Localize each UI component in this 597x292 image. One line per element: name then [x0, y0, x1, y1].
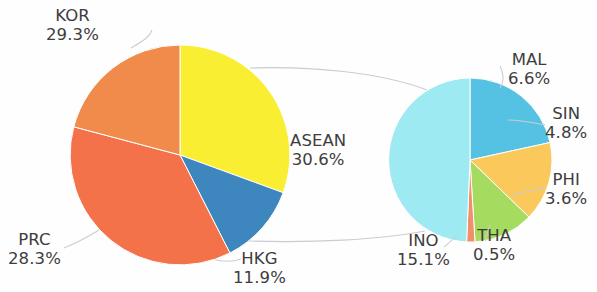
slice-label-phi: PHI 3.6%	[545, 170, 587, 208]
slice-label-hkg-value: 11.9%	[233, 268, 286, 287]
main-pie	[70, 45, 290, 265]
leader-line-prc	[64, 230, 99, 248]
leader-line-kor	[131, 30, 152, 48]
slice-label-ino-value: 15.1%	[397, 250, 450, 269]
slice-label-mal: MAL 6.6%	[508, 50, 550, 88]
slice-label-ino-name: INO	[397, 231, 450, 250]
pie-slice-ino[interactable]	[389, 78, 470, 242]
slice-label-phi-name: PHI	[545, 170, 587, 189]
slice-label-kor-value: 29.3%	[46, 25, 99, 44]
slice-label-tha-name: THA	[473, 226, 515, 245]
slice-label-mal-value: 6.6%	[508, 69, 550, 88]
asean-breakout-pie	[389, 78, 552, 242]
slice-label-phi-value: 3.6%	[545, 189, 587, 208]
slice-label-asean: ASEAN 30.6%	[290, 131, 346, 169]
slice-label-prc-value: 28.3%	[8, 249, 61, 268]
slice-label-sin-name: SIN	[545, 104, 587, 123]
slice-label-hkg-name: HKG	[233, 249, 286, 268]
pie-chart-figure: KOR 29.3% PRC 28.3% HKG 11.9% ASEAN 30.6…	[0, 0, 597, 292]
slice-label-kor: KOR 29.3%	[46, 6, 99, 44]
slice-label-mal-name: MAL	[508, 50, 550, 69]
slice-label-sin: SIN 4.8%	[545, 104, 587, 142]
slice-label-asean-name: ASEAN	[290, 131, 346, 150]
slice-label-tha: THA 0.5%	[473, 226, 515, 264]
slice-label-asean-value: 30.6%	[290, 150, 346, 169]
connector-line-top	[250, 68, 427, 90]
slice-label-hkg: HKG 11.9%	[233, 249, 286, 287]
slice-label-kor-name: KOR	[46, 6, 99, 25]
slice-label-sin-value: 4.8%	[545, 123, 587, 142]
slice-label-tha-value: 0.5%	[473, 245, 515, 264]
slice-label-prc: PRC 28.3%	[8, 230, 61, 268]
slice-label-ino: INO 15.1%	[397, 231, 450, 269]
slice-label-prc-name: PRC	[8, 230, 61, 249]
